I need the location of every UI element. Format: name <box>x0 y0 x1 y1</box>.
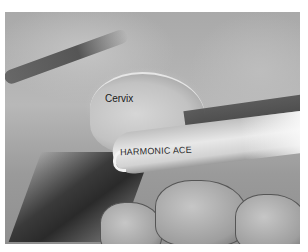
surgical-photo <box>5 12 300 244</box>
bowel-loop <box>235 194 300 244</box>
cervix-label: Cervix <box>105 93 133 104</box>
bowel-loop <box>155 180 247 244</box>
instrument-highlight <box>239 110 300 160</box>
tissue-fold <box>5 28 130 86</box>
bowel-loop <box>100 202 162 244</box>
